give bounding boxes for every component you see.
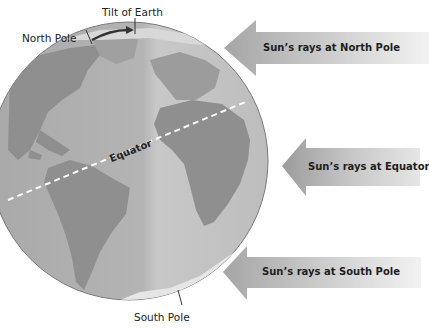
north-pole-label: North Pole bbox=[22, 32, 76, 44]
ray-label-north: Sun’s rays at North Pole bbox=[263, 42, 400, 53]
south-pole-label: South Pole bbox=[134, 311, 190, 323]
south-pole-pointer bbox=[178, 290, 182, 305]
ray-label-south: Sun’s rays at South Pole bbox=[262, 266, 400, 277]
ray-label-equator: Sun’s rays at Equator bbox=[308, 161, 429, 172]
tilt-label: Tilt of Earth bbox=[102, 6, 163, 18]
earth-tilt-diagram: Tilt of Earth North Pole South Pole Equa… bbox=[0, 0, 429, 328]
globe bbox=[0, 22, 268, 306]
